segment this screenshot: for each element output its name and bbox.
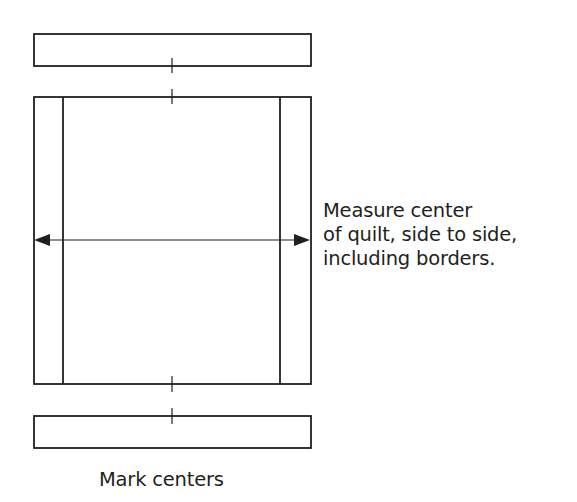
measure-instruction-line-2: of quilt, side to side, (323, 223, 517, 247)
arrowhead-right-icon (294, 234, 310, 246)
mark-centers-label: Mark centers (99, 468, 224, 492)
measure-instruction-line-3: including borders. (323, 247, 517, 271)
arrowhead-left-icon (34, 234, 50, 246)
measure-instruction: Measure center of quilt, side to side, i… (323, 199, 517, 271)
measure-instruction-line-1: Measure center (323, 199, 517, 223)
